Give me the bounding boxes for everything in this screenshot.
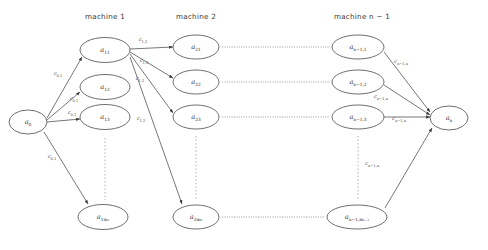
graph-edge bbox=[384, 85, 430, 115]
graph-edge bbox=[130, 47, 173, 49]
graph-node[interactable]: a12 bbox=[80, 75, 130, 100]
graph-node[interactable]: a13 bbox=[80, 105, 130, 130]
edge-cost-label: c0,1 bbox=[48, 153, 57, 161]
graph-node[interactable]: an−1,3 bbox=[332, 105, 384, 129]
edge-cost-label: c0,1 bbox=[54, 70, 63, 78]
graph-node[interactable]: a22 bbox=[173, 70, 219, 94]
edge-cost-label: cn−1,n bbox=[392, 115, 407, 123]
graph-node[interactable]: a2m₂ bbox=[173, 205, 219, 229]
graph-svg: a0a11a12a13a1m₁a21a22a23a2m₂an−1,1an−1,2… bbox=[0, 0, 488, 250]
graph-node[interactable]: an−1,1 bbox=[332, 35, 384, 59]
graph-edge bbox=[44, 132, 88, 204]
edge-cost-label: c0,1 bbox=[70, 95, 79, 103]
edge-cost-label: c0,1 bbox=[68, 109, 77, 117]
graph-edge bbox=[47, 57, 82, 118]
edge-cost-label: cn−1,n bbox=[394, 58, 409, 66]
column-header-machine-1: machine 1 bbox=[85, 12, 125, 21]
graph-edge bbox=[385, 128, 432, 208]
edge-cost-label: c1,2 bbox=[140, 57, 149, 65]
graph-node[interactable]: a23 bbox=[173, 105, 219, 129]
graph-edge bbox=[130, 54, 173, 113]
graph-edge bbox=[47, 119, 80, 122]
column-header-machine-2: machine 2 bbox=[176, 12, 216, 21]
graph-node[interactable]: an bbox=[430, 106, 468, 130]
edge-cost-label: c1,2 bbox=[139, 36, 148, 44]
graph-node[interactable]: a21 bbox=[173, 35, 219, 59]
diagram-canvas: a0a11a12a13a1m₁a21a22a23a2m₂an−1,1an−1,2… bbox=[0, 0, 488, 250]
inter-column-dotted-connectors bbox=[222, 47, 330, 217]
graph-node[interactable]: an−1,mₙ₋₁ bbox=[327, 205, 387, 229]
graph-node[interactable]: an−1,2 bbox=[332, 70, 384, 94]
intra-column-dotted-connectors bbox=[105, 136, 358, 200]
graph-node[interactable]: a0 bbox=[9, 110, 47, 134]
column-header-machine-n-1: machine n − 1 bbox=[334, 12, 390, 21]
edge-cost-label: cn−1,n bbox=[365, 160, 380, 168]
edge-cost-label: c1,2 bbox=[136, 75, 145, 83]
graph-node[interactable]: a1m₁ bbox=[78, 205, 128, 230]
graph-node[interactable]: a11 bbox=[80, 38, 130, 63]
edge-cost-label: c1,2 bbox=[137, 115, 146, 123]
edge-cost-label: cn−1,n bbox=[374, 93, 389, 101]
